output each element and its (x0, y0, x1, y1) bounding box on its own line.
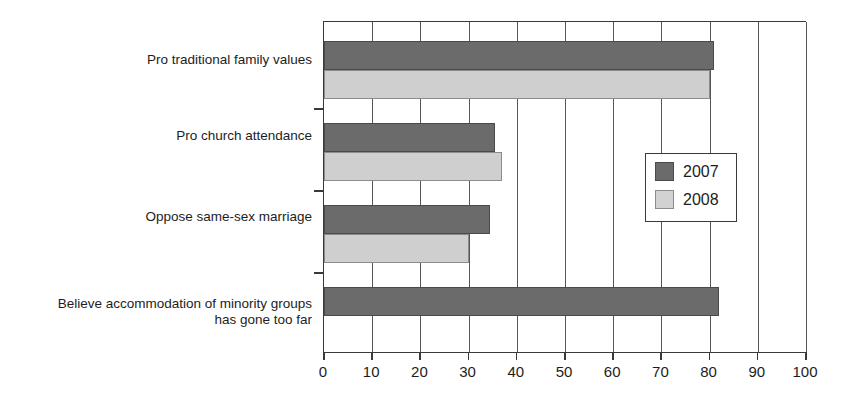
x-tick-label: 90 (748, 363, 765, 381)
legend-swatch-2008 (655, 190, 674, 209)
x-tick-label: 100 (792, 363, 817, 381)
category-axis-labels: Pro traditional family values Pro church… (0, 0, 312, 407)
category-tick (314, 108, 323, 110)
legend-label-2008: 2008 (683, 191, 719, 209)
category-tick (314, 272, 323, 274)
x-tick (468, 352, 470, 360)
bar-2007-cat2 (324, 205, 490, 234)
legend-entry-2007: 2007 (655, 162, 719, 181)
x-tick-label: 40 (507, 363, 524, 381)
bar-2008-cat0 (324, 70, 710, 99)
x-tick (564, 352, 566, 360)
gridline (758, 22, 759, 352)
x-tick-label: 60 (604, 363, 621, 381)
bar-chart: Pro traditional family values Pro church… (0, 0, 841, 407)
legend-label-2007: 2007 (683, 163, 719, 181)
category-label-0: Pro traditional family values (147, 52, 312, 68)
legend: 2007 2008 (645, 153, 737, 222)
x-tick (371, 352, 373, 360)
x-tick-label: 80 (700, 363, 717, 381)
x-tick-label: 70 (652, 363, 669, 381)
x-tick (805, 352, 807, 360)
legend-swatch-2007 (655, 162, 674, 181)
x-tick-label: 0 (319, 363, 327, 381)
category-label-1: Pro church attendance (176, 128, 312, 144)
x-tick (419, 352, 421, 360)
bar-2007-cat3 (324, 287, 719, 316)
category-tick (314, 190, 323, 192)
legend-entry-2008: 2008 (655, 190, 719, 209)
x-tick (660, 352, 662, 360)
category-label-2: Oppose same-sex marriage (145, 209, 312, 225)
x-tick (757, 352, 759, 360)
x-tick-label: 50 (556, 363, 573, 381)
x-tick (323, 352, 325, 360)
x-tick-label: 20 (411, 363, 428, 381)
category-label-3: Believe accommodation of minority groups… (58, 296, 312, 328)
x-tick-label: 10 (363, 363, 380, 381)
bar-2008-cat2 (324, 234, 469, 263)
x-tick-label: 30 (459, 363, 476, 381)
value-axis: 0102030405060708090100 (323, 352, 805, 404)
bar-2007-cat1 (324, 123, 495, 152)
bar-2008-cat1 (324, 152, 502, 181)
x-tick (612, 352, 614, 360)
x-tick (516, 352, 518, 360)
gridline (806, 22, 807, 352)
bar-2007-cat0 (324, 41, 714, 70)
x-tick (709, 352, 711, 360)
